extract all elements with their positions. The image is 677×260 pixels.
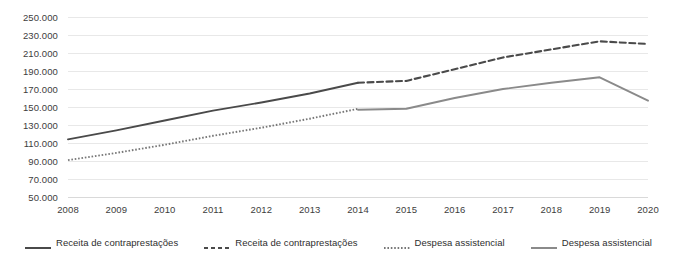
x-axis-tick-label: 2014 [347,204,369,215]
x-axis-tick-label: 2019 [589,204,611,215]
x-axis-tick-label: 2020 [637,204,659,215]
x-axis-tick-label: 2010 [154,204,176,215]
legend-item[interactable]: Receita de contraprestações [204,237,357,248]
legend-swatch-icon [204,238,230,246]
x-axis-tick-label: 2017 [492,204,514,215]
x-axis-tick-label: 2011 [203,204,224,215]
x-axis-tick-label: 2009 [106,204,128,215]
legend-swatch-icon [384,238,410,246]
series-line [358,77,648,109]
legend-item[interactable]: Despesa assistencial [531,237,652,248]
x-axis-tick-label: 2018 [541,204,563,215]
chart-legend: Receita de contraprestaçõesReceita de co… [0,232,677,252]
x-axis-tick-label: 2015 [396,204,418,215]
x-axis-tick-label: 2008 [57,204,79,215]
legend-item[interactable]: Despesa assistencial [384,237,505,248]
legend-swatch-icon [25,238,51,246]
legend-swatch-icon [531,238,557,246]
legend-item[interactable]: Receita de contraprestações [25,237,178,248]
legend-label: Despesa assistencial [415,237,505,248]
x-axis: 2008200920102011201220132014201520162017… [68,200,648,222]
line-chart: 50.00070.00090.000110.000130.000150.0001… [0,0,677,260]
x-axis-tick-label: 2016 [444,204,466,215]
legend-label: Receita de contraprestações [235,237,357,248]
series-line [68,109,358,160]
legend-label: Despesa assistencial [562,237,652,248]
x-axis-tick-label: 2013 [299,204,321,215]
legend-label: Receita de contraprestações [56,237,178,248]
x-axis-tick-label: 2012 [251,204,273,215]
series-line [358,41,648,82]
series-line [68,83,358,140]
